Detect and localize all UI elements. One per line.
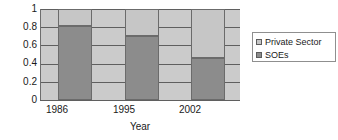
y-tick-0.8: 0.8 <box>1 22 37 32</box>
x-tick-2002: 2002 <box>160 104 220 115</box>
x-axis-title: Year <box>40 121 240 132</box>
bar-segment-soe-1986[interactable] <box>58 26 92 100</box>
y-tick-0.2: 0.2 <box>1 77 37 87</box>
legend-item-private-sector[interactable]: Private Sector <box>256 36 335 48</box>
legend-swatch-icon-soes <box>256 52 262 58</box>
chart-legend[interactable]: Private Sector SOEs <box>252 32 336 62</box>
bar-segment-private-1995[interactable] <box>125 9 159 36</box>
x-tick-1995: 1995 <box>94 104 154 115</box>
y-axis-tick-labels: 1 0.8 0.6 0.4 0.2 0 <box>0 0 37 140</box>
legend-swatch-icon-private-sector <box>256 39 262 45</box>
stacked-bar-chart: 1 0.8 0.6 0.4 0.2 0 1986 1995 2002 <box>0 0 338 140</box>
legend-label-soes: SOEs <box>265 50 289 60</box>
bar-segment-soe-2002[interactable] <box>191 58 225 100</box>
y-tick-1: 1 <box>1 4 37 14</box>
bar-segment-private-1986[interactable] <box>58 9 92 26</box>
x-tick-1986: 1986 <box>27 104 87 115</box>
bar-segment-soe-1995[interactable] <box>125 36 159 100</box>
bar-segment-private-2002[interactable] <box>191 9 225 58</box>
x-axis-line <box>40 100 240 101</box>
y-tick-0.4: 0.4 <box>1 58 37 68</box>
y-tick-0.6: 0.6 <box>1 40 37 50</box>
legend-item-soes[interactable]: SOEs <box>256 49 335 61</box>
plot-area <box>40 9 240 100</box>
legend-label-private-sector: Private Sector <box>265 37 322 47</box>
